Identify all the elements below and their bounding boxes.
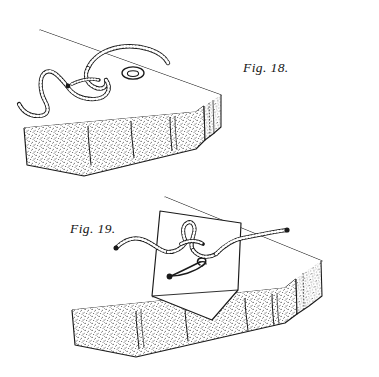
eyelet-grommet [122, 67, 144, 79]
illustration-plate [0, 0, 379, 377]
figure-19-caption: Fig. 19. [70, 221, 116, 237]
figure-18-caption: Fig. 18. [243, 60, 289, 76]
